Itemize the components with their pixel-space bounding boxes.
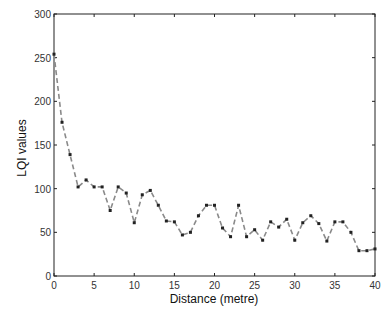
data-point xyxy=(317,222,320,225)
data-point xyxy=(53,53,56,56)
data-point xyxy=(117,185,120,188)
data-point xyxy=(261,239,264,242)
x-tick-label: 5 xyxy=(91,280,97,291)
x-tick-label: 30 xyxy=(289,280,301,291)
data-point xyxy=(349,231,352,234)
y-axis-label: LQI values xyxy=(15,119,29,176)
data-point xyxy=(133,221,136,224)
data-point xyxy=(253,228,256,231)
y-tick-label: 0 xyxy=(45,271,51,282)
data-point xyxy=(245,235,248,238)
data-point xyxy=(69,153,72,156)
data-point xyxy=(61,121,64,124)
data-point xyxy=(333,220,336,223)
data-point xyxy=(189,231,192,234)
data-point xyxy=(341,220,344,223)
x-tick-label: 20 xyxy=(209,280,221,291)
data-point xyxy=(157,204,160,207)
x-tick-label: 10 xyxy=(129,280,141,291)
x-tick-label: 25 xyxy=(249,280,261,291)
y-tick-label: 300 xyxy=(34,9,51,20)
axis-ticks xyxy=(54,14,375,276)
data-point xyxy=(277,226,280,229)
data-point xyxy=(325,240,328,243)
series-line xyxy=(54,54,375,251)
data-point xyxy=(125,192,128,195)
data-point xyxy=(365,249,368,252)
plot-area-border xyxy=(54,14,375,276)
data-series xyxy=(53,53,377,253)
x-tick-label: 35 xyxy=(329,280,341,291)
data-point xyxy=(229,235,232,238)
data-point xyxy=(173,220,176,223)
data-point xyxy=(181,233,184,236)
data-point xyxy=(309,214,312,217)
x-axis-label: Distance (metre) xyxy=(170,292,259,306)
y-tick-label: 150 xyxy=(34,140,51,151)
data-point xyxy=(109,209,112,212)
axes-frame xyxy=(54,14,375,276)
data-point xyxy=(374,247,377,250)
x-tick-label: 0 xyxy=(51,280,57,291)
data-point xyxy=(77,185,80,188)
data-point xyxy=(237,204,240,207)
axis-tick-labels: 0510152025303540050100150200250300 xyxy=(34,9,381,291)
data-point xyxy=(285,218,288,221)
data-point xyxy=(149,189,152,192)
data-point xyxy=(301,221,304,224)
data-point xyxy=(165,219,168,222)
data-point xyxy=(213,204,216,207)
data-point xyxy=(221,226,224,229)
x-tick-label: 40 xyxy=(369,280,381,291)
y-tick-label: 100 xyxy=(34,184,51,195)
data-point xyxy=(85,178,88,181)
lqi-distance-chart: 0510152025303540050100150200250300 Dista… xyxy=(0,0,388,318)
data-point xyxy=(357,249,360,252)
y-tick-label: 200 xyxy=(34,96,51,107)
y-tick-label: 250 xyxy=(34,53,51,64)
data-point xyxy=(141,193,144,196)
data-point xyxy=(93,185,96,188)
data-point xyxy=(269,220,272,223)
data-point xyxy=(101,185,104,188)
y-tick-label: 50 xyxy=(40,227,52,238)
data-point xyxy=(197,214,200,217)
data-point xyxy=(293,239,296,242)
data-point xyxy=(205,204,208,207)
x-tick-label: 15 xyxy=(169,280,181,291)
